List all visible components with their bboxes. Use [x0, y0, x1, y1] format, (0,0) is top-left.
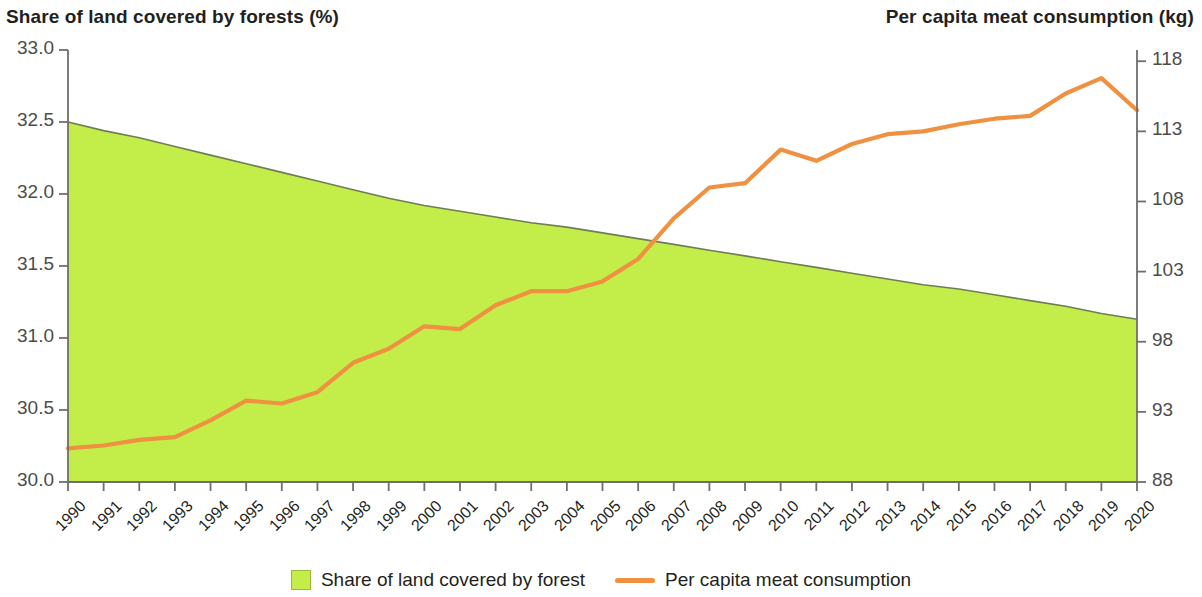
left-tick-label-30.5: 30.5 — [17, 397, 54, 419]
forest-area-fill — [68, 122, 1137, 482]
forest-area-swatch-icon — [291, 570, 311, 590]
left-tick-label-31.0: 31.0 — [17, 325, 54, 347]
left-axis-ticks — [59, 50, 68, 482]
left-tick-label-31.5: 31.5 — [17, 253, 54, 275]
right-tick-label-98: 98 — [1152, 329, 1173, 351]
chart-legend: Share of land covered by forest Per capi… — [0, 569, 1202, 591]
right-tick-label-88: 88 — [1152, 469, 1173, 491]
right-tick-label-108: 108 — [1152, 188, 1184, 210]
left-tick-label-30.0: 30.0 — [17, 469, 54, 491]
legend-item-forest[interactable]: Share of land covered by forest — [291, 569, 585, 591]
right-tick-label-118: 118 — [1152, 48, 1182, 70]
left-tick-label-32.0: 32.0 — [17, 181, 54, 203]
legend-label-meat: Per capita meat consumption — [665, 569, 911, 591]
right-tick-label-103: 103 — [1152, 259, 1184, 281]
right-tick-label-93: 93 — [1152, 399, 1173, 421]
left-tick-label-33.0: 33.0 — [17, 37, 54, 59]
forest-area-series — [68, 122, 1137, 482]
right-tick-label-113: 113 — [1152, 118, 1182, 140]
right-axis-ticks — [1137, 61, 1146, 482]
dual-axis-chart: Share of land covered by forests (%) Per… — [0, 0, 1202, 597]
legend-item-meat[interactable]: Per capita meat consumption — [615, 569, 911, 591]
left-tick-label-32.5: 32.5 — [17, 109, 54, 131]
legend-label-forest: Share of land covered by forest — [321, 569, 585, 591]
meat-line-swatch-icon — [615, 578, 655, 583]
bottom-axis-ticks — [68, 482, 1137, 491]
